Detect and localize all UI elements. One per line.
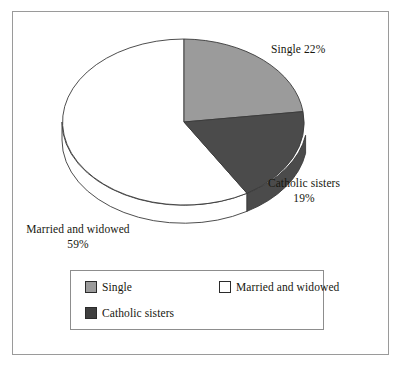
pie-chart-figure: Single 22% Catholic sisters 19% Married …: [0, 0, 403, 371]
legend-item-single: Single: [85, 281, 132, 293]
slice-label-married-percent: 59%: [26, 237, 129, 252]
slice-label-catholic-sisters: Catholic sisters 19%: [268, 176, 340, 206]
legend-swatch-married-icon: [219, 281, 231, 293]
slice-label-married-name: Married and widowed: [26, 222, 129, 237]
legend-label-single: Single: [102, 281, 132, 293]
slice-label-catholic-name: Catholic sisters: [268, 176, 340, 191]
legend-label-catholic: Catholic sisters: [102, 307, 174, 319]
legend-swatch-single-icon: [85, 281, 97, 293]
legend-item-catholic-sisters: Catholic sisters: [85, 307, 174, 319]
legend-label-married: Married and widowed: [236, 281, 339, 293]
legend-item-married-and-widowed: Married and widowed: [219, 281, 339, 293]
slice-label-single-text: Single 22%: [271, 43, 325, 55]
chart-legend: Single Married and widowed Catholic sist…: [70, 270, 324, 330]
slice-label-catholic-percent: 19%: [268, 191, 340, 206]
slice-label-married-and-widowed: Married and widowed 59%: [26, 222, 129, 252]
slice-label-single: Single 22%: [271, 42, 325, 57]
legend-swatch-catholic-icon: [85, 307, 97, 319]
